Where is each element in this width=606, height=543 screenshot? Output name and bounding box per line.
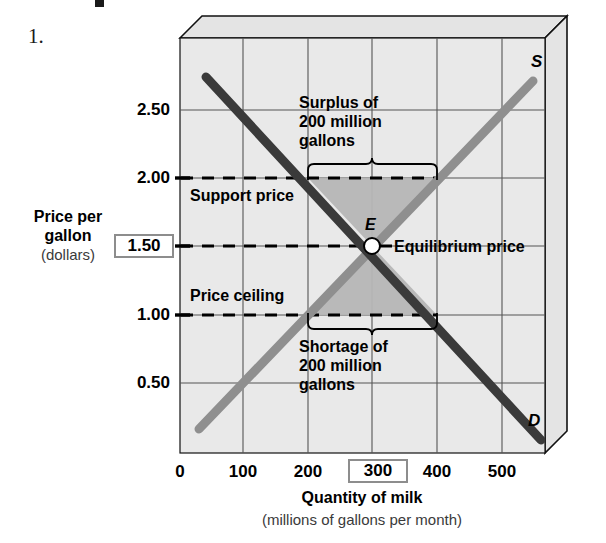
y-axis-title-line1: Price per bbox=[8, 207, 128, 226]
support-price-label: Support price bbox=[190, 186, 294, 205]
y-axis-title-line2: gallon bbox=[8, 226, 128, 245]
x-axis-subtitle: (millions of gallons per month) bbox=[182, 511, 542, 528]
y-axis-title-units: (dollars) bbox=[8, 245, 128, 264]
x-tick-0: 0 bbox=[160, 462, 200, 482]
y-tick-2-00: 2.00 bbox=[118, 168, 170, 188]
surplus-line1: Surplus of bbox=[299, 93, 429, 112]
shortage-line3: gallons bbox=[299, 375, 429, 394]
x-tick-100: 100 bbox=[223, 462, 263, 482]
price-ceiling-label: Price ceiling bbox=[190, 286, 284, 305]
equilibrium-point-label: E bbox=[365, 216, 376, 234]
box-right-face bbox=[545, 16, 567, 453]
x-tick-500: 500 bbox=[482, 462, 522, 482]
box-top-face bbox=[180, 16, 567, 38]
equilibrium-price-label: Equilibrium price bbox=[394, 237, 525, 256]
surplus-annotation: Surplus of 200 million gallons bbox=[299, 93, 429, 150]
shortage-line1: Shortage of bbox=[299, 337, 429, 356]
surplus-line2: 200 million bbox=[299, 112, 429, 131]
y-tick-2-50: 2.50 bbox=[118, 100, 170, 120]
shortage-annotation: Shortage of 200 million gallons bbox=[299, 337, 429, 394]
x-tick-200: 200 bbox=[288, 462, 328, 482]
x-tick-300-boxed: 300 bbox=[348, 459, 408, 483]
x-axis-title: Quantity of milk bbox=[212, 489, 512, 507]
figure-root: 1. bbox=[0, 0, 606, 543]
y-axis-title: Price per gallon (dollars) bbox=[8, 207, 128, 264]
supply-curve-label: S bbox=[531, 52, 542, 72]
shortage-line2: 200 million bbox=[299, 356, 429, 375]
y-tick-1-00: 1.00 bbox=[118, 305, 170, 325]
demand-curve-label: D bbox=[528, 411, 540, 431]
surplus-line3: gallons bbox=[299, 131, 429, 150]
equilibrium-point-marker bbox=[364, 238, 380, 254]
x-tick-400: 400 bbox=[417, 462, 457, 482]
y-tick-0-50: 0.50 bbox=[118, 373, 170, 393]
